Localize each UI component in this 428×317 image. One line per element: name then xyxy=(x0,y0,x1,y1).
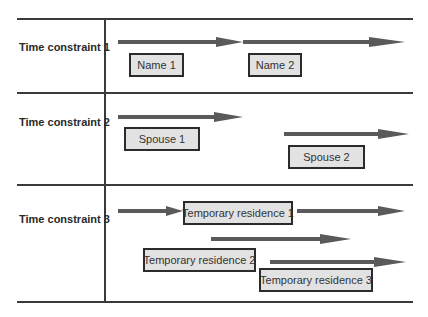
arrow-icon xyxy=(118,206,183,216)
box-temporary-residence-1: Temporary residence 1 xyxy=(183,201,293,225)
arrow-icon xyxy=(118,37,243,47)
box-name-2: Name 2 xyxy=(248,53,302,77)
arrow-icon xyxy=(211,234,351,244)
arrow-icon xyxy=(270,257,406,267)
arrow-icon xyxy=(284,129,409,139)
arrow-icon xyxy=(297,206,405,216)
box-temporary-residence-2: Temporary residence 2 xyxy=(143,248,256,272)
box-name-1: Name 1 xyxy=(129,53,184,77)
arrow-icon xyxy=(118,112,243,122)
box-spouse-2: Spouse 2 xyxy=(288,145,365,169)
box-temporary-residence-3: Temporary residence 3 xyxy=(259,268,373,292)
box-spouse-1: Spouse 1 xyxy=(124,127,200,151)
arrow-icon xyxy=(243,37,405,47)
